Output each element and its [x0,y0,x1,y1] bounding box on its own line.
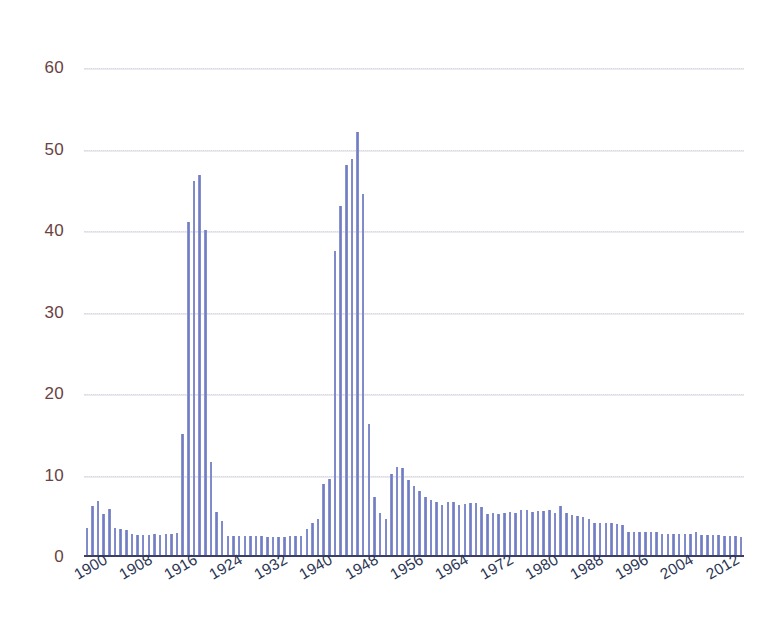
bar[interactable] [582,517,585,556]
bar[interactable] [458,505,461,556]
bar[interactable] [464,504,467,556]
bar[interactable] [108,509,111,556]
bar[interactable] [114,528,117,556]
bar[interactable] [306,529,309,556]
bar[interactable] [492,513,495,556]
bar[interactable] [272,537,275,556]
bar[interactable] [244,536,247,556]
bar[interactable] [509,512,512,556]
bar[interactable] [289,536,292,556]
bar[interactable] [559,506,562,557]
bar[interactable] [424,497,427,556]
bar[interactable] [97,501,100,556]
bar[interactable] [689,534,692,556]
bar[interactable] [407,480,410,556]
bar[interactable] [356,132,359,556]
bar[interactable] [311,523,314,556]
bar[interactable] [317,519,320,556]
bar[interactable] [537,511,540,556]
bar[interactable] [435,502,438,556]
bar[interactable] [520,510,523,556]
bar[interactable] [339,206,342,556]
bar[interactable] [86,528,89,557]
bar[interactable] [588,519,591,556]
bar[interactable] [131,534,134,556]
bar[interactable] [740,537,743,556]
bar[interactable] [198,175,201,556]
bar[interactable] [548,510,551,556]
bar[interactable] [266,537,269,556]
bar[interactable] [373,497,376,556]
bar[interactable] [210,462,213,556]
bar[interactable] [447,502,450,556]
bar[interactable] [621,525,624,556]
bar[interactable] [480,507,483,556]
bar[interactable] [418,491,421,556]
bar[interactable] [159,535,162,556]
bar[interactable] [627,532,630,556]
bar[interactable] [667,534,670,556]
bar[interactable] [125,530,128,556]
bar[interactable] [345,165,348,556]
bar[interactable] [328,479,331,556]
bar[interactable] [187,222,190,556]
bar[interactable] [486,514,489,556]
bar[interactable] [441,505,444,556]
bar[interactable] [379,513,382,556]
bar[interactable] [661,534,664,556]
bar[interactable] [334,251,337,556]
bar[interactable] [475,503,478,556]
bar[interactable] [102,514,105,556]
bar[interactable] [390,474,393,556]
bar[interactable] [385,519,388,556]
bar[interactable] [616,524,619,556]
bar[interactable] [396,467,399,556]
bar[interactable] [712,535,715,556]
bar[interactable] [531,512,534,556]
bar[interactable] [255,536,258,556]
bar[interactable] [554,513,557,556]
bar[interactable] [204,230,207,556]
bar[interactable] [695,532,698,556]
bar[interactable] [571,515,574,556]
bar[interactable] [119,529,122,556]
bar[interactable] [497,514,500,556]
bar[interactable] [503,513,506,556]
bar[interactable] [633,532,636,556]
bar[interactable] [176,533,179,556]
bar[interactable] [644,532,647,556]
bar[interactable] [469,503,472,556]
bar[interactable] [650,532,653,556]
bar[interactable] [605,523,608,556]
bar[interactable] [294,536,297,556]
bar[interactable] [599,523,602,556]
bar[interactable] [181,434,184,556]
bar[interactable] [452,502,455,556]
bar[interactable] [706,535,709,556]
bar[interactable] [700,535,703,556]
bar[interactable] [413,486,416,556]
bar[interactable] [91,506,94,557]
bar[interactable] [221,521,224,556]
bar[interactable] [362,194,365,556]
bar[interactable] [249,536,252,556]
bar[interactable] [542,511,545,556]
bar[interactable] [322,484,325,556]
bar[interactable] [260,536,263,556]
bar[interactable] [723,536,726,556]
bar[interactable] [430,500,433,556]
bar[interactable] [401,468,404,556]
bar[interactable] [717,535,720,556]
bar[interactable] [193,181,196,556]
bar[interactable] [610,523,613,556]
bar[interactable] [215,512,218,556]
bar[interactable] [300,536,303,556]
bar[interactable] [136,535,139,556]
bar[interactable] [672,534,675,556]
bar[interactable] [514,513,517,556]
bar[interactable] [576,516,579,556]
bar[interactable] [227,536,230,556]
bar[interactable] [165,534,168,556]
bar[interactable] [153,534,156,556]
bar[interactable] [526,510,529,556]
